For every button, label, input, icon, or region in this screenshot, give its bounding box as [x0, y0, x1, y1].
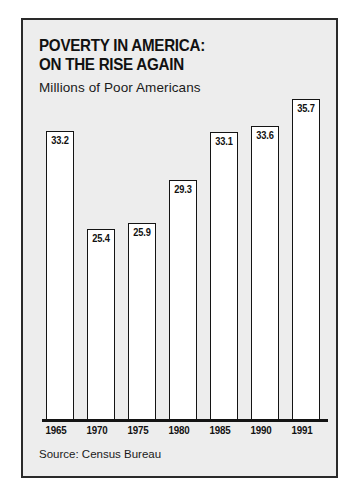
x-axis-labels: 1965197019751980198519901991: [42, 424, 328, 444]
source-note: Source: Census Bureau: [39, 448, 161, 460]
bar-1975: 25.9: [128, 223, 156, 420]
bar-value-label: 29.3: [171, 184, 195, 195]
chart-title-line-1: POVERTY IN AMERICA:: [39, 36, 287, 55]
x-label-1965: 1965: [37, 424, 74, 436]
bar-value-label: 33.6: [253, 130, 277, 141]
bar-value-label: 33.2: [48, 135, 72, 146]
bar-1965: 33.2: [46, 131, 74, 420]
bar-1985: 33.1: [210, 132, 238, 420]
bar-value-label: 33.1: [212, 136, 236, 147]
x-axis-line: [42, 419, 328, 422]
x-label-1975: 1975: [119, 424, 156, 436]
chart-panel: POVERTY IN AMERICA: ON THE RISE AGAIN Mi…: [21, 18, 338, 478]
bar-value-label: 25.9: [130, 227, 154, 238]
bar-1970: 25.4: [87, 229, 115, 420]
x-label-1991: 1991: [283, 424, 320, 436]
plot-area: 33.225.425.929.333.133.635.7: [40, 90, 325, 420]
chart-title-line-2: ON THE RISE AGAIN: [39, 55, 287, 74]
bar-1990: 33.6: [251, 126, 279, 420]
bar-value-label: 35.7: [294, 103, 318, 114]
x-label-1970: 1970: [78, 424, 115, 436]
x-label-1985: 1985: [201, 424, 238, 436]
bar-1991: 35.7: [292, 99, 320, 420]
bar-1980: 29.3: [169, 180, 197, 420]
bar-value-label: 25.4: [89, 233, 113, 244]
x-label-1980: 1980: [160, 424, 197, 436]
x-label-1990: 1990: [242, 424, 279, 436]
chart-title: POVERTY IN AMERICA: ON THE RISE AGAIN: [39, 36, 309, 73]
